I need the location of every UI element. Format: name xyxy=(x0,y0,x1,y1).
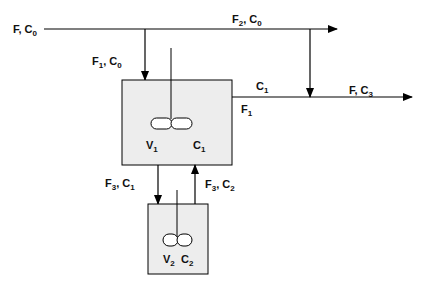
product-label: F, C3 xyxy=(349,84,373,101)
tank2-conc-label: C2 xyxy=(181,253,193,270)
tank1-out-c-label: C1 xyxy=(256,80,268,97)
down-stream-label: F3, C1 xyxy=(105,177,135,194)
tank2-impeller-right xyxy=(177,234,192,246)
up-stream-label: F3, C2 xyxy=(205,178,235,195)
stream2-label: F2, C0 xyxy=(232,13,262,30)
stream1-label: F1, C0 xyxy=(92,55,122,72)
tank2-volume-label: V2 xyxy=(163,253,175,270)
tank1-impeller-left xyxy=(151,118,172,129)
tank1-impeller-right xyxy=(171,118,192,129)
feed-label: F, C0 xyxy=(13,23,37,40)
tank2-impeller-left xyxy=(163,234,178,246)
process-diagram xyxy=(0,0,428,283)
tank1-volume-label: V1 xyxy=(146,139,158,156)
tank1-out-f-label: F1 xyxy=(241,103,252,120)
tank1-conc-label: C1 xyxy=(193,139,205,156)
